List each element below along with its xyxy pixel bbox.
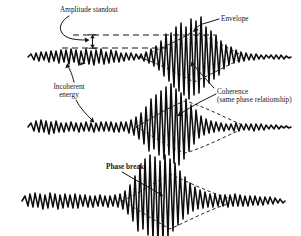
label-incoherent-energy-line2: energy bbox=[59, 91, 79, 99]
label-incoherent-energy-line1: Incoherent bbox=[53, 83, 84, 91]
bottom-trace-group bbox=[22, 155, 285, 236]
seismic-coherence-figure: Amplitude standout Envelope Incoherent e… bbox=[0, 0, 301, 236]
label-amplitude-standout: Amplitude standout bbox=[60, 6, 118, 14]
label-envelope: Envelope bbox=[221, 15, 249, 23]
bottom-trace-wiggle bbox=[22, 155, 285, 236]
label-phase-break: Phase break bbox=[106, 163, 144, 171]
envelope-leader bbox=[195, 19, 219, 29]
label-coherence: Coherence (same phase relationship) bbox=[217, 88, 292, 105]
amplitude-standout-leader-arrowhead bbox=[85, 38, 90, 43]
middle-trace-group bbox=[28, 61, 291, 165]
amplitude-standout-window-tick bbox=[80, 62, 86, 65]
label-incoherent-energy: Incoherent energy bbox=[40, 83, 98, 100]
label-coherence-line1: Coherence bbox=[217, 88, 248, 96]
figure-canvas bbox=[0, 0, 301, 236]
incoherent-energy-leader-top bbox=[68, 66, 74, 82]
label-coherence-line2: (same phase relationship) bbox=[217, 96, 292, 104]
incoherent-energy-leader-bottom bbox=[76, 100, 92, 120]
amplitude-standout-leader bbox=[60, 16, 86, 40]
